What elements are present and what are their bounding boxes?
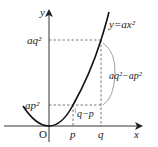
x-tick-p: p: [69, 128, 76, 140]
y-tick-ap2: ap²: [25, 99, 40, 111]
curve-label: y=ax²: [108, 18, 136, 30]
origin-label: O: [39, 128, 47, 140]
y-axis-label: y: [39, 6, 45, 18]
parabola-diagram: y x O y=ax² aq² ap² p q q−p aq²−ap²: [0, 0, 158, 147]
vertical-difference-label: aq²−ap²: [109, 70, 143, 81]
x-tick-q: q: [98, 128, 104, 140]
horizontal-difference-brace: [75, 108, 76, 113]
x-axis-label: x: [133, 128, 139, 140]
y-tick-aq2: aq²: [27, 34, 42, 46]
horizontal-difference-label: q−p: [77, 108, 94, 119]
